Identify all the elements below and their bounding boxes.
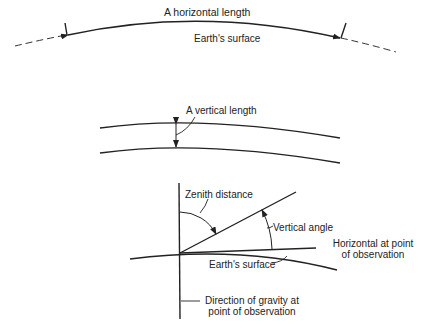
zenith-distance-arc <box>180 212 216 234</box>
vertical-angle-label: Vertical angle <box>273 222 333 233</box>
gravity-label-line2: point of observation <box>196 306 308 317</box>
lower-surface-curve <box>100 148 340 163</box>
gravity-label: Direction of gravity at point of observa… <box>196 295 308 317</box>
right-plumb-tick <box>341 23 346 38</box>
horizontal-line <box>180 248 316 253</box>
vertical-length-panel <box>100 117 340 163</box>
zenith-leader <box>200 199 208 213</box>
gravity-label-line1: Direction of gravity at <box>196 295 308 306</box>
horizontal-length-label: A horizontal length <box>164 7 250 18</box>
vertical-angle-arc <box>262 210 272 249</box>
horizontal-label-line1: Horizontal at point <box>316 238 425 249</box>
horizontal-label-line2: of observation <box>316 249 425 260</box>
zenith-distance-label: Zenith distance <box>185 189 253 200</box>
earth-surface-label-top: Earth's surface <box>194 33 260 44</box>
diagram-canvas <box>0 0 425 331</box>
horizontal-label: Horizontal at point of observation <box>316 238 425 260</box>
earth-surface-dashed-right <box>341 38 396 52</box>
vertical-length-leader <box>176 117 195 135</box>
earth-surface-dashed-left <box>15 35 66 46</box>
earth-surface-label-bottom: Earth's surface <box>209 259 275 270</box>
left-plumb-tick <box>65 23 67 35</box>
vertical-length-label: A vertical length <box>186 105 257 116</box>
gravity-direction-line <box>179 183 180 319</box>
upper-surface-curve <box>100 123 340 138</box>
